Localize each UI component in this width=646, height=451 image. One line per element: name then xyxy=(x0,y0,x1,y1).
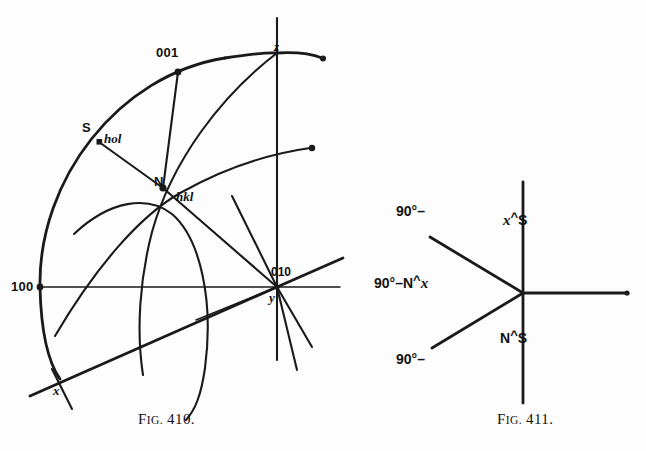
point-marker-100 xyxy=(37,284,44,291)
fig-410-drawing xyxy=(30,18,343,420)
caption-left-num: 410. xyxy=(163,411,195,427)
annotation-middle-left-italic: x xyxy=(421,275,429,291)
caption-fig-411: FIG. 411. xyxy=(497,412,553,427)
annotation-lower-right-angle: N^S xyxy=(500,331,527,345)
figures-vector-layer: .ink { stroke:#1a1a1a; fill:none; stroke… xyxy=(0,0,646,451)
label-indices-hol: hol xyxy=(104,132,121,145)
caption-right-f: F xyxy=(497,411,506,427)
caption-right-ig: IG. xyxy=(506,414,522,426)
caret-icon-middle-left: ^ xyxy=(413,273,421,286)
annotation-lower-right-text: N xyxy=(500,330,510,346)
label-axis-x: x xyxy=(53,384,60,397)
annotation-lower-right-suffix: S xyxy=(518,330,527,346)
caption-left-f: F xyxy=(138,411,147,427)
top-arc-right-terminus-dot xyxy=(320,56,326,62)
annotation-middle-left-angle: 90°–N^x xyxy=(374,276,428,291)
label-indices-hkl: hkl xyxy=(176,190,193,203)
label-axis-z: z xyxy=(274,40,279,53)
label-pole-001: 001 xyxy=(156,46,179,59)
zone-arc-right-terminus-dot xyxy=(309,145,315,151)
fig411-upper-left-ray xyxy=(430,237,523,293)
caret-icon-lower-right: ^ xyxy=(510,328,518,341)
caret-icon-upper-right: ^ xyxy=(511,210,519,223)
label-point-S: S xyxy=(82,121,91,134)
hub-ray-lower-left xyxy=(196,287,277,320)
label-point-N: N xyxy=(154,175,164,188)
caption-fig-410: FIG. 410. xyxy=(138,412,195,427)
hub-ray-lower-right xyxy=(277,287,312,347)
point-marker-010 xyxy=(274,284,279,289)
caption-right-num: 411. xyxy=(522,411,553,427)
top-arc-right-extension xyxy=(277,53,322,58)
annotation-upper-right-text: S xyxy=(518,212,527,228)
primitive-circle-arc-upper-right xyxy=(225,53,277,58)
zone-arc-through-N-to-right xyxy=(55,148,310,336)
annotation-upper-right-angle: x^S xyxy=(503,213,527,228)
label-pole-100: 100 xyxy=(11,280,34,293)
annotation-lower-left-angle: 90°– xyxy=(396,352,425,366)
label-axis-y: y xyxy=(269,291,275,304)
fig411-horizontal-terminus-dot xyxy=(624,290,629,295)
figure-page: .ink { stroke:#1a1a1a; fill:none; stroke… xyxy=(0,0,646,451)
hub-ray-lower-far xyxy=(277,287,297,370)
caption-left-ig: IG. xyxy=(147,414,163,426)
point-marker-001 xyxy=(175,69,182,76)
annotation-middle-left-text: 90°–N xyxy=(374,275,413,291)
axis-x-diagonal xyxy=(30,287,277,396)
label-pole-010: 010 xyxy=(271,266,291,278)
point-marker-S xyxy=(97,139,103,145)
fig-411-drawing xyxy=(430,182,630,403)
annotation-upper-right-italic: x xyxy=(503,212,511,228)
annotation-upper-left-angle: 90°– xyxy=(396,204,425,218)
